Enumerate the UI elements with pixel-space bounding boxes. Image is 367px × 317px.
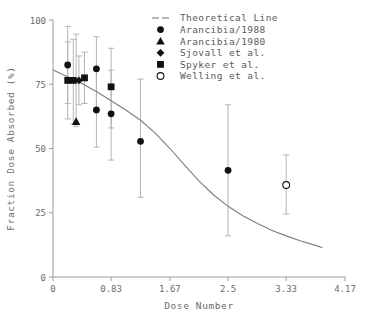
data-point-marker xyxy=(137,138,144,145)
legend-item-label: Arancibia/1980 xyxy=(180,36,266,47)
chart-container: 025507510000.831.672.53.334.17Dose Numbe… xyxy=(0,0,367,317)
y-axis-tick-label: 75 xyxy=(35,80,46,90)
legend-item-label: Sjovall et al. xyxy=(180,47,266,58)
y-axis-tick-label: 0 xyxy=(41,273,46,283)
y-axis-tick-label: 25 xyxy=(35,208,46,218)
legend-item-label: Spyker et al. xyxy=(180,59,260,70)
data-point-marker xyxy=(81,74,88,81)
chart-legend: Theoretical LineArancibia/1988Arancibia/… xyxy=(152,12,278,81)
data-point-marker xyxy=(64,62,71,69)
legend-marker-swatch xyxy=(157,61,164,68)
x-axis-tick-label: 2.5 xyxy=(220,284,236,294)
y-axis-title: Fraction Dose Absorbed (%) xyxy=(5,66,16,230)
x-axis-title: Dose Number xyxy=(164,300,234,311)
data-point-marker xyxy=(70,77,77,84)
data-point-marker xyxy=(108,110,115,117)
legend-item-label: Theoretical Line xyxy=(180,12,278,23)
x-axis-tick-label: 3.33 xyxy=(275,284,297,294)
legend-marker-swatch xyxy=(156,37,165,45)
legend-item-label: Welling et al. xyxy=(180,70,266,81)
legend-marker-swatch xyxy=(157,49,165,57)
legend-marker-swatch xyxy=(157,73,164,80)
data-point-marker xyxy=(225,167,232,174)
data-point-marker xyxy=(93,65,100,72)
data-point-marker xyxy=(93,107,100,114)
x-axis-tick-label: 0.83 xyxy=(100,284,122,294)
x-axis-tick-label: 1.67 xyxy=(159,284,181,294)
data-point-marker xyxy=(283,182,290,189)
y-axis-tick-label: 50 xyxy=(35,144,46,154)
x-axis-tick-label: 4.17 xyxy=(334,284,356,294)
scatter-plot: 025507510000.831.672.53.334.17Dose Numbe… xyxy=(0,0,367,317)
theoretical-line-layer xyxy=(53,70,323,248)
data-point-marker xyxy=(108,83,115,90)
legend-item-label: Arancibia/1988 xyxy=(180,24,266,35)
theoretical-line xyxy=(53,70,323,248)
y-axis-tick-label: 100 xyxy=(30,16,46,26)
x-axis-tick-label: 0 xyxy=(50,284,55,294)
legend-marker-swatch xyxy=(157,26,164,33)
